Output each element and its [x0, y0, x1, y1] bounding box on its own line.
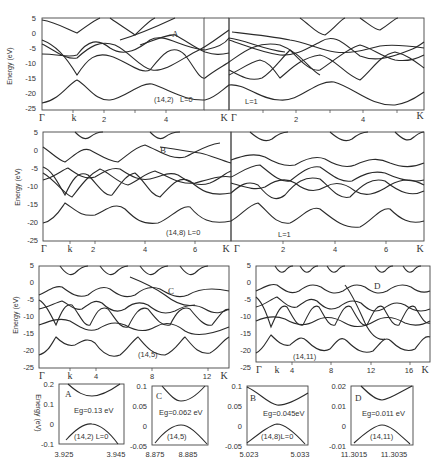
tube-label-b: (14,8)L=0	[261, 432, 293, 441]
svg-text:4: 4	[143, 245, 147, 254]
svg-text:0.2: 0.2	[44, 380, 54, 389]
panel-14-11: 5 0 -5 -10 -15 -20 -25 Γ k 4 8 12 16 K D…	[235, 255, 445, 380]
panel-14-8: Energy (eV) 5 0 -5 -10 -15 -20 -25 Γ k 2	[0, 125, 445, 255]
y-tick-labels: 0.1 0.05 0 -0.05	[130, 382, 147, 451]
svg-text:k: k	[68, 243, 73, 254]
y-tick-labels: 5 0 -5 -10 -15 -20 -25	[25, 14, 36, 113]
band-structure-14-8-plot: Energy (eV) 5 0 -5 -10 -15 -20 -25 Γ k 2	[0, 125, 445, 255]
svg-text:Γ: Γ	[256, 364, 262, 375]
svg-text:0.1: 0.1	[137, 382, 147, 391]
tube-label-d: (14,11)	[370, 432, 394, 441]
inset-d: 0.02 0.01 0 -0.01 D Eg=0.011 eV (14,11) …	[320, 375, 445, 474]
y-tick-labels: 5 0 -5 -10 -15 -20 -25	[240, 261, 251, 372]
svg-text:2: 2	[281, 245, 285, 254]
svg-text:5.033: 5.033	[291, 450, 310, 459]
svg-text:-5: -5	[31, 164, 38, 173]
svg-text:-10: -10	[27, 182, 38, 191]
x-ticks-14-5	[70, 368, 208, 371]
svg-text:8.885: 8.885	[179, 450, 198, 459]
x-tick-labels-14-11: Γ k 4 8 12 16 K	[256, 364, 429, 375]
svg-text:-10: -10	[240, 312, 251, 321]
svg-text:0.02: 0.02	[331, 382, 346, 391]
svg-text:4: 4	[361, 115, 365, 124]
inset-b-plot: 0.1 0.05 0 -0.05 B Eg=0.045eV (14,8)L=0 …	[225, 375, 335, 474]
svg-text:-20: -20	[240, 346, 251, 355]
tube-label-14-11: (14,11)	[293, 352, 317, 361]
band-structure-14-2-plot: Energy (eV) 5 0 -5 -10 -15 -20 -25 Γ	[0, 0, 445, 125]
bands-14-8	[43, 132, 424, 227]
svg-text:11.3035: 11.3035	[381, 450, 408, 459]
inset-c: 0.1 0.05 0 -0.05 C Eg=0.062 eV (14,5) 8.…	[125, 375, 225, 474]
svg-text:Γ: Γ	[39, 112, 45, 123]
tube-label-14-8: (14,8) L=0	[166, 228, 200, 237]
svg-text:4: 4	[290, 366, 294, 375]
svg-text:0: 0	[32, 29, 36, 38]
svg-text:-25: -25	[23, 363, 34, 372]
svg-text:4: 4	[333, 245, 337, 254]
point-label-c: C	[156, 391, 162, 401]
gap-label-d: Eg=0.011 eV	[362, 409, 405, 418]
bands-14-11	[256, 266, 430, 353]
svg-text:-15: -15	[25, 74, 36, 83]
svg-text:-25: -25	[25, 104, 36, 113]
segment-label-l1: L=1	[245, 97, 258, 106]
x-ticks-14-11	[292, 362, 410, 365]
svg-text:0.01: 0.01	[331, 402, 346, 411]
segment-label-l0: L=0	[180, 95, 193, 104]
svg-text:11.3015: 11.3015	[341, 450, 368, 459]
svg-text:-20: -20	[27, 218, 38, 227]
y-tick-labels: 5 0 -5 -10 -15 -20 -25	[27, 128, 38, 245]
point-label-a: A	[172, 29, 179, 39]
point-label-d: D	[355, 393, 362, 403]
svg-text:5.023: 5.023	[240, 450, 259, 459]
svg-text:2: 2	[102, 115, 106, 124]
svg-text:0: 0	[34, 146, 38, 155]
segment-label-l1: L=1	[278, 230, 291, 239]
svg-text:-5: -5	[27, 295, 34, 304]
gap-label-c: Eg=0.062 eV	[159, 408, 203, 417]
svg-text:6: 6	[193, 245, 197, 254]
svg-text:12: 12	[367, 366, 375, 375]
svg-text:Γ: Γ	[41, 243, 47, 254]
svg-text:0.1: 0.1	[44, 400, 54, 409]
svg-text:-15: -15	[240, 329, 251, 338]
conduction-band	[162, 386, 205, 401]
svg-text:-20: -20	[23, 346, 34, 355]
svg-text:-10: -10	[25, 59, 36, 68]
svg-text:-25: -25	[27, 236, 38, 245]
svg-text:-10: -10	[23, 312, 34, 321]
svg-text:k: k	[275, 364, 280, 375]
svg-text:0: 0	[143, 422, 147, 431]
plot-frame-l1	[229, 18, 424, 110]
inset-c-plot: 0.1 0.05 0 -0.05 C Eg=0.062 eV (14,5) 8.…	[125, 375, 225, 474]
svg-text:8.875: 8.875	[146, 450, 165, 459]
inset-b: 0.1 0.05 0 -0.05 B Eg=0.045eV (14,8)L=0 …	[225, 375, 335, 474]
svg-text:5: 5	[30, 261, 34, 270]
svg-text:-5: -5	[244, 295, 251, 304]
svg-text:0: 0	[238, 422, 242, 431]
svg-text:16: 16	[405, 366, 413, 375]
panel-14-2: Energy (eV) 5 0 -5 -10 -15 -20 -25 Γ	[0, 0, 445, 125]
svg-text:K: K	[220, 112, 228, 123]
point-label-a: A	[65, 389, 72, 399]
y-tick-labels: 0.02 0.01 0 -0.01	[329, 382, 346, 451]
y-axis-label: Energy (eV)	[6, 47, 14, 84]
svg-text:K: K	[416, 110, 424, 121]
svg-text:5: 5	[247, 261, 251, 270]
panel-14-5: Energy (eV) 5 0 -5 -10 -15 -20 -25 Γ k 4…	[0, 255, 235, 380]
svg-text:Γ: Γ	[234, 243, 240, 254]
svg-text:0.1: 0.1	[232, 382, 242, 391]
point-label-c: C	[168, 286, 174, 296]
svg-text:3.925: 3.925	[55, 450, 74, 459]
gap-label-a: Eg=0.13 eV	[74, 406, 113, 415]
svg-text:-25: -25	[240, 363, 251, 372]
gap-label-b: Eg=0.045eV	[263, 409, 305, 418]
svg-text:-15: -15	[27, 200, 38, 209]
svg-text:0.05: 0.05	[132, 402, 147, 411]
svg-text:0.05: 0.05	[227, 402, 242, 411]
conduction-band	[361, 386, 412, 400]
band-structure-14-5-plot: Energy (eV) 5 0 -5 -10 -15 -20 -25 Γ k 4…	[0, 255, 235, 380]
tube-label-a: (14,2) L=0	[74, 432, 108, 441]
y-axis-label: Energy (eV)	[14, 168, 22, 205]
inset-a-plot: Energy (eV) 0.2 0.1 0 -0.1 A Eg=0.13 eV …	[0, 375, 125, 474]
